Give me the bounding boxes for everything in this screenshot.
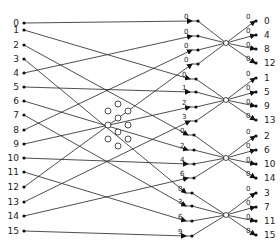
crossing-node (115, 143, 121, 149)
twiddle-label: 4 (180, 156, 185, 164)
output-weight-label: 0 (246, 70, 250, 78)
output-label: 9 (264, 101, 270, 111)
input-node (22, 142, 25, 145)
stage1-node (194, 90, 197, 93)
input-node (22, 214, 25, 217)
output-weight-label: 0 (246, 27, 250, 35)
output-weight-label: 0 (246, 142, 250, 150)
stage2-edge (196, 79, 226, 100)
output-edge (226, 207, 255, 215)
stage1-node (192, 162, 195, 165)
stage1-edge (24, 87, 190, 92)
stage2-edge (196, 92, 226, 100)
input-node (22, 99, 25, 102)
output-weight-label: 0 (246, 213, 250, 221)
twiddle-label: 9 (178, 228, 182, 236)
input-label: 14 (8, 211, 20, 221)
input-node (22, 71, 25, 74)
output-label: 5 (264, 87, 270, 97)
input-label: 12 (8, 182, 19, 192)
stage1-edge (24, 115, 186, 206)
output-label: 14 (264, 173, 276, 183)
stage1-node (196, 19, 199, 22)
output-edge (226, 193, 255, 215)
output-node (254, 33, 257, 36)
crossing-node (125, 108, 131, 114)
stage1-node (194, 119, 197, 122)
input-label: 7 (13, 110, 19, 120)
stage1-node (192, 176, 195, 179)
output-weight-label: 0 (246, 227, 250, 235)
output-weight-label: 0 (246, 55, 250, 63)
output-node (254, 233, 257, 236)
crossing-node (115, 129, 121, 135)
output-label: 6 (264, 145, 270, 155)
crossing-node (105, 108, 111, 114)
input-node (22, 200, 25, 203)
input-node (22, 21, 25, 24)
butterfly-hub (224, 156, 229, 161)
input-label: 5 (13, 82, 19, 92)
input-node (22, 156, 25, 159)
input-node (22, 57, 25, 60)
stage1-edge (24, 231, 186, 236)
edges (24, 21, 255, 236)
output-label: 1 (264, 73, 270, 83)
twiddle-label: 0 (178, 185, 182, 193)
stage1-node (196, 34, 199, 37)
crossing-node (105, 136, 111, 142)
output-weight-label: 0 (246, 199, 250, 207)
crossing-node (115, 115, 121, 121)
stage1-node (194, 77, 197, 80)
output-weight-label: 0 (246, 98, 250, 106)
output-label: 3 (264, 188, 270, 198)
input-label: 11 (8, 167, 19, 177)
input-node (22, 85, 25, 88)
input-label: 8 (13, 125, 19, 135)
output-node (254, 61, 257, 64)
output-node (254, 219, 257, 222)
crossing-node (125, 122, 131, 128)
twiddle-label: 2 (182, 99, 186, 107)
twiddle-label: 0 (184, 42, 188, 50)
twiddle-label: 0 (184, 28, 188, 36)
twiddle-label: 6 (178, 213, 183, 221)
input-node (22, 128, 25, 131)
output-node (254, 19, 257, 22)
input-label: 1 (13, 25, 19, 35)
output-label: 0 (264, 16, 270, 26)
input-node (22, 185, 25, 188)
input-label: 3 (13, 54, 19, 64)
output-edge (226, 21, 255, 43)
output-label: 12 (264, 58, 275, 68)
crossing-node (115, 101, 121, 107)
output-edge (226, 78, 255, 100)
stage1-edge (24, 158, 188, 164)
twiddle-label: 2 (180, 142, 184, 150)
stage1-node (196, 48, 199, 51)
output-label: 10 (264, 159, 276, 169)
stage1-node (190, 234, 193, 237)
twiddle-label: 6 (180, 170, 185, 178)
input-label: 15 (8, 226, 19, 236)
output-edge (226, 35, 255, 43)
output-label: 13 (264, 115, 275, 125)
output-node (254, 176, 257, 179)
output-node (254, 104, 257, 107)
stage1-node (190, 204, 193, 207)
stage1-edge (24, 45, 188, 135)
twiddle-label: 3 (182, 113, 186, 121)
output-label: 2 (264, 131, 270, 141)
output-node (254, 162, 257, 165)
input-node (22, 28, 25, 31)
twiddle-label: 0 (182, 71, 186, 79)
input-label: 10 (8, 153, 20, 163)
output-edge (226, 92, 255, 100)
output-node (254, 90, 257, 93)
twiddle-label: 0 (184, 13, 188, 21)
input-label: 9 (13, 139, 19, 149)
stage1-node (192, 148, 195, 151)
input-node (22, 170, 25, 173)
stage1-node (192, 133, 195, 136)
output-node (254, 191, 257, 194)
